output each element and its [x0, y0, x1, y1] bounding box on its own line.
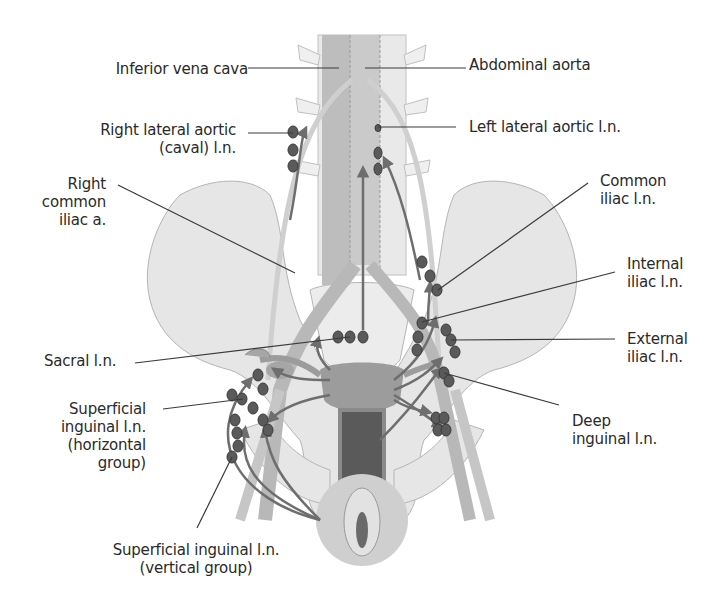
label-abdominal-aorta: Abdominal aorta	[469, 56, 591, 74]
label-sacral-ln: Sacral l.n.	[44, 352, 116, 370]
label-right-lateral-aortic-ln: Right lateral aortic (caval) l.n.	[100, 121, 236, 157]
label-right-common-iliac-artery: Right common iliac a.	[42, 175, 106, 229]
label-external-iliac-ln: External iliac l.n.	[627, 330, 688, 366]
label-inferior-vena-cava: Inferior vena cava	[116, 60, 248, 78]
label-deep-inguinal-ln: Deep inguinal l.n.	[572, 412, 657, 448]
label-internal-iliac-ln: Internal iliac l.n.	[627, 255, 683, 291]
anatomy-illustration	[0, 0, 724, 604]
label-superficial-inguinal-vertical: Superficial inguinal l.n. (vertical grou…	[86, 541, 306, 577]
label-common-iliac-ln: Common iliac l.n.	[600, 172, 666, 208]
pelvic-lymphatics-diagram: Inferior vena cava Abdominal aorta Right…	[0, 0, 724, 604]
label-superficial-inguinal-horizontal: Superficial inguinal l.n. (horizontal gr…	[61, 400, 146, 472]
vulva	[316, 474, 408, 566]
label-left-lateral-aortic-ln: Left lateral aortic l.n.	[469, 118, 621, 136]
